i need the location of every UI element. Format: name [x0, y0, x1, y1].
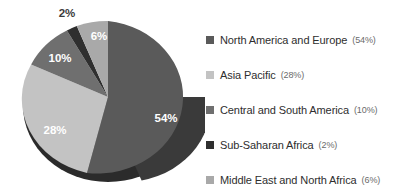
legend-swatch-icon — [206, 176, 214, 184]
legend-item-percent: (28%) — [281, 70, 305, 80]
legend-swatch-icon — [206, 106, 214, 114]
legend-item-asia-pacific[interactable]: Asia Pacific (28%) — [206, 67, 304, 83]
legend-swatch-icon — [206, 71, 214, 79]
legend-item-label: North America and Europe — [220, 34, 347, 46]
legend-item-percent: (54%) — [352, 35, 376, 45]
legend-item-central-and-south-america[interactable]: Central and South America (10%) — [206, 102, 377, 118]
legend-item-label: Sub-Saharan Africa — [220, 139, 314, 151]
pie-label-leader-line — [64, 22, 70, 30]
legend-item-label: Asia Pacific — [220, 69, 276, 81]
legend-item-percent: (6%) — [362, 175, 381, 185]
legend-item-label: Middle East and North Africa — [220, 174, 357, 186]
legend-item-north-america-and-europe[interactable]: North America and Europe (54%) — [206, 32, 376, 48]
pie-label-10: 10% — [48, 52, 71, 64]
legend-swatch-icon — [206, 141, 214, 149]
legend-item-label: Central and South America — [220, 104, 349, 116]
pie-chart-svg: 54% 28% 10% 2% 6% — [0, 0, 205, 196]
legend-item-percent: (2%) — [319, 140, 338, 150]
chart-legend: North America and Europe (54%) Asia Paci… — [206, 28, 399, 188]
legend-swatch-icon — [206, 36, 214, 44]
pie-chart-figure: 54% 28% 10% 2% 6% North America and Euro… — [0, 0, 399, 196]
pie-label-28: 28% — [43, 124, 66, 136]
pie-chart-plot-area: 54% 28% 10% 2% 6% — [0, 0, 205, 196]
legend-item-percent: (10%) — [354, 105, 378, 115]
pie-label-54: 54% — [154, 112, 177, 124]
legend-item-sub-saharan-africa[interactable]: Sub-Saharan Africa (2%) — [206, 137, 337, 153]
pie-label-6: 6% — [91, 30, 108, 42]
pie-label-2: 2% — [59, 7, 76, 19]
legend-item-middle-east-and-north-africa[interactable]: Middle East and North Africa (6%) — [206, 172, 380, 188]
